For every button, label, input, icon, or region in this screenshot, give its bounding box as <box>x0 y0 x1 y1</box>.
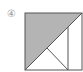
geometry-figure <box>0 0 83 72</box>
inner-segment <box>47 48 68 70</box>
